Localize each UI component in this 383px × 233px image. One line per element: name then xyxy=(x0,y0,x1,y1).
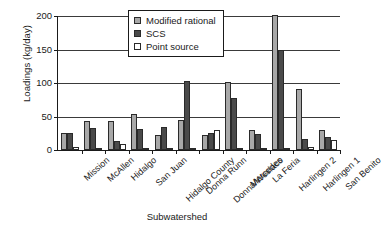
x-tick-mark xyxy=(176,150,177,154)
bar xyxy=(261,148,267,150)
legend-swatch-icon xyxy=(134,17,141,24)
bar-group xyxy=(58,16,82,150)
bar xyxy=(308,147,314,150)
legend-label: SCS xyxy=(146,28,166,39)
legend-swatch-icon xyxy=(134,43,141,50)
legend: Modified rationalSCSPoint source xyxy=(128,10,224,57)
bar xyxy=(214,130,220,150)
x-tick-mark xyxy=(340,150,341,154)
y-tick-label: 150 xyxy=(26,45,52,55)
bar xyxy=(120,144,126,150)
x-tick-mark xyxy=(82,150,83,154)
x-axis-title: Subwatershed xyxy=(0,211,354,222)
legend-swatch-icon xyxy=(134,30,141,37)
bar-group xyxy=(82,16,106,150)
bar xyxy=(284,148,290,150)
legend-label: Point source xyxy=(146,41,199,52)
bar-group xyxy=(246,16,270,150)
bar-group xyxy=(223,16,247,150)
x-tick-mark xyxy=(152,150,153,154)
legend-item[interactable]: SCS xyxy=(134,27,216,40)
legend-item[interactable]: Point source xyxy=(134,40,216,53)
y-tick-label: 50 xyxy=(26,112,52,122)
x-tick-label: San Juan xyxy=(154,155,189,188)
x-tick-mark xyxy=(223,150,224,154)
bar xyxy=(190,148,196,150)
bar xyxy=(278,50,284,150)
bar xyxy=(237,148,243,150)
y-tick-label: 0 xyxy=(26,145,52,155)
bar-group xyxy=(317,16,341,150)
y-tick-label: 200 xyxy=(26,11,52,21)
bar xyxy=(231,98,237,150)
x-tick-mark xyxy=(293,150,294,154)
bar xyxy=(96,148,102,150)
y-tick-label: 100 xyxy=(26,78,52,88)
bar xyxy=(137,129,143,150)
bar xyxy=(167,148,173,150)
bar xyxy=(161,127,167,150)
legend-label: Modified rational xyxy=(146,15,216,26)
bar xyxy=(184,81,190,150)
x-tick-mark xyxy=(246,150,247,154)
bar-group xyxy=(270,16,294,150)
bar xyxy=(331,140,337,150)
bar-group xyxy=(105,16,129,150)
x-tick-mark xyxy=(105,150,106,154)
x-tick-mark xyxy=(199,150,200,154)
bar-group xyxy=(293,16,317,150)
bar xyxy=(143,148,149,150)
x-tick-mark xyxy=(270,150,271,154)
bar xyxy=(73,147,79,150)
legend-item[interactable]: Modified rational xyxy=(134,14,216,27)
x-tick-mark xyxy=(317,150,318,154)
y-tick-mark xyxy=(54,150,58,151)
x-tick-mark xyxy=(129,150,130,154)
bar xyxy=(90,128,96,150)
